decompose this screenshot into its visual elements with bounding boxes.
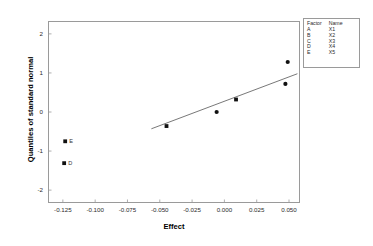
normal-probability-plot-screenshot: -0.125-0.100-0.075-0.050-0.0250.0000.025… xyxy=(0,0,373,246)
x-tick-label: 0.000 xyxy=(217,207,232,213)
legend-row: EX5 xyxy=(307,50,350,56)
x-tick-label: -0.100 xyxy=(86,207,104,213)
x-tick-label: -0.025 xyxy=(183,207,201,213)
x-tick-label: 0.025 xyxy=(249,207,264,213)
legend-factor-cell: E xyxy=(307,50,329,56)
data-point-label: E xyxy=(69,139,73,145)
x-tick-label: -0.050 xyxy=(151,207,169,213)
factor-legend-table: Factor Name AX1BX2CX3DX4EX5 xyxy=(307,21,350,56)
x-tick-label: -0.075 xyxy=(119,207,137,213)
x-axis-title: Effect xyxy=(48,222,300,231)
data-point-label: D xyxy=(68,161,72,167)
x-tick-label: -0.125 xyxy=(54,207,72,213)
y-axis-title: Quantiles of standard normal xyxy=(26,19,35,201)
x-tick-label: 0.050 xyxy=(281,207,296,213)
factor-legend: Factor Name AX1BX2CX3DX4EX5 xyxy=(303,18,360,68)
plot-frame xyxy=(48,21,300,203)
legend-name-cell: X5 xyxy=(329,50,350,56)
